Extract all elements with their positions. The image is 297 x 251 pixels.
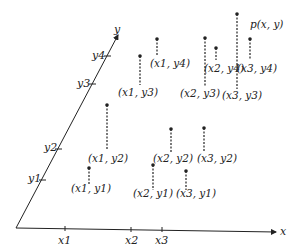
- point-label: (x2, y2): [153, 153, 193, 164]
- point-label: (x3, y4): [237, 63, 277, 74]
- x-axis-label: x: [280, 226, 286, 237]
- x-tick-label: x2: [125, 235, 138, 246]
- point-label: (x2, y3): [180, 88, 220, 99]
- point-label: (x1, y4): [150, 58, 190, 69]
- point-label: (x1, y2): [88, 153, 128, 164]
- x-axis: [16, 228, 276, 232]
- y-tick-label: y1: [28, 173, 41, 184]
- y-tick-label: y3: [77, 78, 90, 89]
- x-tick-label: x3: [155, 235, 168, 246]
- y-axis-label: y: [114, 24, 120, 35]
- point-label: (x3, y2): [197, 153, 237, 164]
- y-axis: [16, 35, 118, 228]
- point-label: (x1, y1): [71, 183, 111, 194]
- y-tick-label: y4: [92, 50, 105, 61]
- point-label: (x3, y3): [222, 90, 262, 101]
- point-label: (x3, y1): [176, 188, 216, 199]
- point-label: (x2, y1): [133, 188, 173, 199]
- y-tick-label: y2: [44, 142, 57, 153]
- joint-pmf-diagram: x y x1 x2 x3 y1 y2 y3 y4 p(x, y) (x1, y4…: [0, 0, 297, 251]
- point-label: (x1, y3): [118, 87, 158, 98]
- diagram-canvas: [0, 0, 297, 251]
- function-label: p(x, y): [250, 19, 283, 30]
- x-tick-label: x1: [58, 235, 71, 246]
